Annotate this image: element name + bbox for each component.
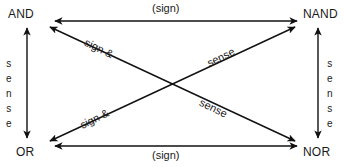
edge-label-right-vertical-sense: sense bbox=[327, 56, 333, 131]
logic-gate-diagram: AND NAND OR NOR (sign) (sign) sign & sen… bbox=[0, 0, 345, 167]
vertical-label-char: s bbox=[327, 104, 332, 114]
node-label-nor: NOR bbox=[303, 145, 330, 159]
diagram-canvas bbox=[0, 0, 345, 167]
vertical-label-char: s bbox=[327, 59, 332, 69]
vertical-label-char: n bbox=[327, 89, 333, 99]
node-label-and: AND bbox=[8, 7, 34, 21]
vertical-label-char: e bbox=[6, 119, 12, 129]
edge-label-bottom-sign: (sign) bbox=[152, 149, 180, 161]
vertical-label-char: e bbox=[6, 74, 12, 84]
vertical-label-char: e bbox=[327, 119, 333, 129]
vertical-label-char: s bbox=[6, 59, 11, 69]
node-label-or: OR bbox=[16, 145, 34, 159]
node-label-nand: NAND bbox=[303, 7, 338, 21]
vertical-label-char: s bbox=[6, 104, 11, 114]
edge-label-top-sign: (sign) bbox=[152, 2, 180, 14]
vertical-label-char: e bbox=[327, 74, 333, 84]
edge-label-left-vertical-sense: sense bbox=[6, 56, 12, 131]
vertical-label-char: n bbox=[6, 89, 12, 99]
